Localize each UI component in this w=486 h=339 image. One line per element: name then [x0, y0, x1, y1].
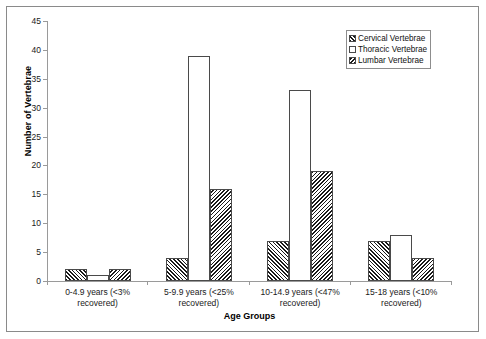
bar	[210, 189, 232, 281]
bar	[65, 269, 87, 281]
x-axis-tick-label: 0-4.9 years (<3%recovered)	[47, 287, 148, 309]
chart-legend: Cervical VertebraeThoracic VertebraeLumb…	[346, 30, 431, 69]
legend-swatch-icon	[349, 46, 356, 53]
x-axis-tick-label-line: 5-9.9 years (<25%	[148, 287, 249, 298]
legend-item: Lumbar Vertebrae	[349, 55, 427, 66]
x-axis-tick-label-line: 10-14.9 years (<47%	[250, 287, 351, 298]
x-axis-tick-mark	[47, 281, 48, 285]
x-axis-tick-label: 10-14.9 years (<47%recovered)	[250, 287, 351, 309]
x-axis-tick-mark	[350, 281, 351, 285]
y-axis-tick-label: 25	[13, 133, 41, 142]
x-axis-tick-label-line: 0-4.9 years (<3%	[47, 287, 148, 298]
x-axis-tick-label-line: recovered)	[351, 298, 452, 309]
legend-item-label: Lumbar Vertebrae	[358, 55, 424, 66]
legend-swatch-icon	[349, 57, 356, 64]
legend-item-label: Cervical Vertebrae	[358, 33, 425, 44]
legend-item: Thoracic Vertebrae	[349, 44, 427, 55]
x-axis-title: Age Groups	[47, 311, 452, 321]
y-axis-tick-label: 40	[13, 46, 41, 55]
x-axis-tick-mark	[451, 281, 452, 285]
bar	[109, 269, 131, 281]
legend-item-label: Thoracic Vertebrae	[358, 44, 427, 55]
legend-swatch-icon	[349, 35, 356, 42]
y-axis-tick-label: 20	[13, 161, 41, 170]
bar	[368, 241, 390, 281]
x-axis-tick-label: 5-9.9 years (<25%recovered)	[148, 287, 249, 309]
x-axis-line	[47, 281, 452, 282]
bar	[311, 171, 333, 281]
x-axis-tick-label-line: recovered)	[47, 298, 148, 309]
y-axis-tick-label: 0	[13, 277, 41, 286]
bar-group	[47, 21, 148, 281]
y-axis-tick-label: 30	[13, 104, 41, 113]
x-axis-tick-mark	[249, 281, 250, 285]
bar	[188, 56, 210, 281]
bar	[289, 90, 311, 281]
bar	[87, 275, 109, 281]
x-axis-tick-label: 15-18 years (<10%recovered)	[351, 287, 452, 309]
bar	[267, 241, 289, 281]
y-axis-tick-label: 45	[13, 17, 41, 26]
bar-group	[250, 21, 351, 281]
y-axis-tick-label: 10	[13, 219, 41, 228]
x-axis-tick-label-line: 15-18 years (<10%	[351, 287, 452, 298]
y-axis-tick-label: 35	[13, 75, 41, 84]
y-axis-tick-label: 15	[13, 190, 41, 199]
x-axis-tick-mark	[147, 281, 148, 285]
legend-item: Cervical Vertebrae	[349, 33, 427, 44]
bar-group	[148, 21, 249, 281]
x-axis-tick-label-line: recovered)	[148, 298, 249, 309]
x-axis-tick-label-line: recovered)	[250, 298, 351, 309]
y-axis-tick-label: 5	[13, 248, 41, 257]
bar	[390, 235, 412, 281]
bar	[412, 258, 434, 281]
bar	[166, 258, 188, 281]
chart-figure: Number of Vertebrae 051015202530354045 0…	[0, 0, 486, 339]
